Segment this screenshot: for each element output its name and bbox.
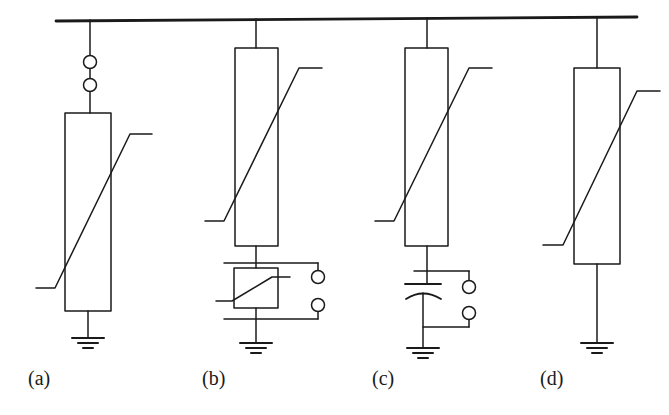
spark-gap-circle-lower-a <box>84 79 97 92</box>
schematic-drawing <box>0 0 669 415</box>
busbar-line <box>56 17 637 21</box>
arrester-block-d <box>574 68 620 264</box>
surge-arrester-figure: (a) (b) (c) (d) <box>0 0 669 415</box>
terminal-circle-upper-c <box>463 281 476 294</box>
circuit-b <box>205 19 325 353</box>
caption-c: (c) <box>372 368 394 388</box>
arrester-block-a <box>65 113 111 311</box>
varistor-diagonal-c <box>375 68 492 221</box>
varistor-diagonal-d <box>543 91 660 245</box>
counter-diagonal-b <box>216 277 290 301</box>
arrester-block-b <box>235 48 278 246</box>
circuit-d <box>543 17 660 353</box>
spark-gap-circle-upper-a <box>84 56 97 69</box>
terminal-circle-lower-b <box>312 299 325 312</box>
circuit-c <box>375 18 492 358</box>
caption-d: (d) <box>540 368 563 388</box>
circuit-a <box>36 20 152 348</box>
terminal-circle-upper-b <box>312 271 325 284</box>
counter-block-b <box>234 268 278 308</box>
caption-a: (a) <box>28 368 50 388</box>
caption-b: (b) <box>202 368 225 388</box>
varistor-diagonal-b <box>205 68 322 221</box>
terminal-circle-lower-c <box>463 307 476 320</box>
arrester-block-c <box>405 48 448 246</box>
varistor-diagonal-a <box>36 134 152 288</box>
